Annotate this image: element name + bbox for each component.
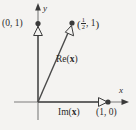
point-label-0-1: (0, 1) <box>2 19 23 29</box>
vector-label-im: Im(x) <box>58 108 80 118</box>
point-dot-0-1 <box>35 21 40 26</box>
vector-label-im-prefix: Im( <box>58 107 72 117</box>
point-label-half-1-rest: , 1 <box>86 18 96 28</box>
vector-label-im-suffix: ) <box>76 107 79 117</box>
fraction-one-half: 12 <box>81 17 86 31</box>
complex-vector-diagram: y x (0, 1) (12, 1) Re(x) Im(x) (1, 0) <box>0 0 136 130</box>
vector-label-re-prefix: Re( <box>56 54 70 64</box>
y-axis-label: y <box>43 4 47 13</box>
point-label-1-0: (1, 0) <box>96 108 117 118</box>
point-dot-half-1 <box>69 20 74 25</box>
vector-arrowhead-to-half-1 <box>65 26 73 36</box>
vector-arrowhead-to-0-1 <box>34 27 43 36</box>
fraction-denominator: 2 <box>81 23 86 31</box>
x-axis-arrowhead <box>122 99 130 105</box>
x-axis-label: x <box>119 86 123 95</box>
vector-label-re-suffix: ) <box>74 54 77 64</box>
point-dot-1-0 <box>105 99 110 104</box>
point-label-half-1-close-paren: ) <box>95 18 99 30</box>
point-label-half-1: (12, 1) <box>77 17 99 31</box>
fraction-numerator: 1 <box>81 17 86 24</box>
vector-label-re: Re(x) <box>56 55 78 65</box>
y-axis-arrowhead <box>35 3 41 11</box>
